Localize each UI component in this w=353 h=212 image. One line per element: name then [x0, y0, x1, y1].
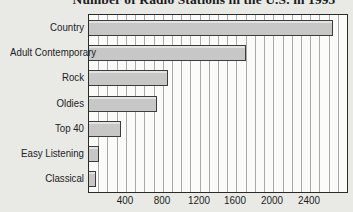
bar-chart-figure: Number of Radio Stations in the U.S. in …	[0, 0, 353, 212]
minor-gridline	[227, 15, 228, 192]
minor-gridline	[246, 15, 247, 192]
category-label: Classical	[10, 171, 84, 185]
minor-gridline	[200, 15, 201, 192]
minor-gridline	[301, 15, 302, 192]
x-tick-label: 1200	[179, 194, 219, 207]
minor-gridline	[338, 15, 339, 192]
minor-gridline	[283, 15, 284, 192]
chart-title: Number of Radio Stations in the U.S. in …	[58, 0, 350, 7]
x-tick-label: 400	[105, 194, 145, 207]
bar-country	[89, 20, 333, 36]
minor-gridline	[273, 15, 274, 192]
bar-rock	[89, 70, 168, 86]
minor-gridline	[329, 15, 330, 192]
category-label: Country	[10, 20, 84, 34]
minor-gridline	[172, 15, 173, 192]
bar-classical	[89, 171, 96, 187]
minor-gridline	[181, 15, 182, 192]
bar-adult-contemporary	[89, 45, 246, 61]
minor-gridline	[310, 15, 311, 192]
minor-gridline	[163, 15, 164, 192]
x-tick-label: 1600	[216, 194, 256, 207]
minor-gridline	[319, 15, 320, 192]
bar-top-40	[89, 121, 121, 137]
category-label: Rock	[10, 70, 84, 84]
plot-area	[88, 14, 348, 193]
minor-gridline	[218, 15, 219, 192]
minor-gridline	[209, 15, 210, 192]
category-label: Top 40	[10, 121, 84, 135]
category-label: Easy Listening	[10, 146, 84, 160]
minor-gridline	[236, 15, 237, 192]
x-tick-label: 800	[142, 194, 182, 207]
category-label: Oldies	[10, 96, 84, 110]
x-tick-label: 2400	[289, 194, 329, 207]
minor-gridline	[264, 15, 265, 192]
minor-gridline	[190, 15, 191, 192]
x-tick-label: 2000	[252, 194, 292, 207]
bar-easy-listening	[89, 146, 99, 162]
minor-gridline	[255, 15, 256, 192]
minor-gridline	[292, 15, 293, 192]
category-label: Adult Contemporary	[10, 45, 84, 59]
bar-oldies	[89, 96, 157, 112]
